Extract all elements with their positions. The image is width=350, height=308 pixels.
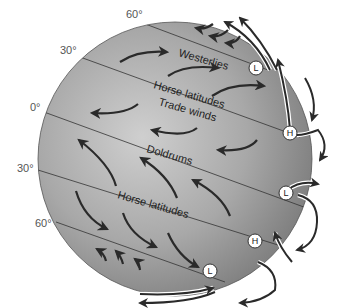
svg-text:L: L [283, 188, 288, 198]
lat-label-south-60: 60° [35, 217, 52, 229]
svg-text:H: H [287, 128, 294, 138]
svg-text:L: L [207, 266, 212, 276]
pressure-marker-l-1: L [249, 61, 263, 75]
svg-text:L: L [253, 63, 258, 73]
pressure-marker-h-2: H [248, 234, 262, 248]
lat-label-south-30: 30° [17, 162, 34, 174]
pressure-marker-l-2: L [279, 186, 293, 200]
pressure-marker-h-1: H [283, 126, 297, 140]
pressure-marker-l-3: L [203, 264, 217, 278]
globe-svg: Westerlies Horse latitudes Trade winds D… [0, 0, 350, 308]
svg-text:H: H [252, 236, 259, 246]
lat-label-equator: 0° [30, 101, 41, 113]
global-circulation-diagram: Westerlies Horse latitudes Trade winds D… [0, 0, 350, 308]
lat-label-north-60: 60° [126, 8, 143, 20]
lat-label-north-30: 30° [60, 44, 77, 56]
